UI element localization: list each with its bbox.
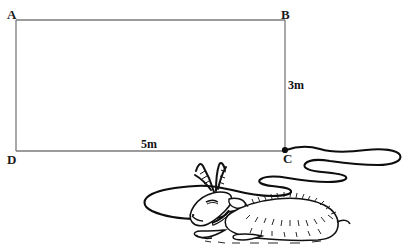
goat-tail bbox=[337, 220, 350, 224]
goat-nostril bbox=[192, 214, 195, 216]
goat-ground-strokes bbox=[205, 241, 321, 243]
geometry-figure: A B C D 5m 3m bbox=[0, 0, 411, 246]
dimension-label-height: 3m bbox=[288, 79, 304, 91]
vertex-label-b: B bbox=[281, 8, 290, 21]
vertex-label-a: A bbox=[7, 8, 16, 21]
goat-hind-leg bbox=[233, 234, 262, 240]
goat-illustration bbox=[190, 163, 350, 243]
vertex-label-d: D bbox=[7, 153, 16, 166]
figure-canvas bbox=[0, 0, 411, 246]
vertex-label-c: C bbox=[283, 152, 292, 165]
rectangle-abcd bbox=[16, 20, 285, 151]
dimension-label-width: 5m bbox=[141, 138, 157, 150]
